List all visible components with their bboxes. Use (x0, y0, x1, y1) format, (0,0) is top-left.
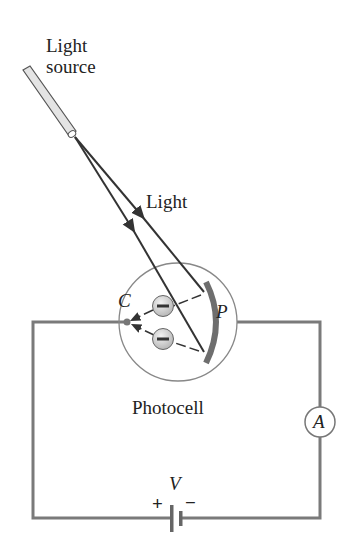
light-source-label: Light (46, 36, 87, 56)
battery-icon (170, 505, 183, 532)
electron-1 (153, 296, 174, 317)
cathode-dot (124, 319, 131, 326)
light-label: Light (146, 192, 187, 212)
electron-2 (153, 329, 174, 350)
ammeter-label: A (313, 412, 325, 432)
anode-plate (206, 282, 216, 363)
photocell-label: Photocell (132, 398, 204, 418)
battery-minus-label: − (185, 493, 196, 513)
cathode-label: C (118, 291, 131, 311)
battery-plus-label: + (152, 494, 163, 514)
photocell-envelope (119, 263, 237, 381)
plate-label: P (216, 302, 228, 322)
light-rays (75, 137, 204, 352)
voltage-label: V (169, 474, 181, 494)
light-source-label-2: source (46, 57, 96, 77)
